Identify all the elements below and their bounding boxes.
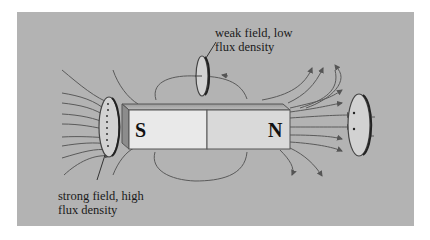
weak-field-annotation: weak field, low flux density <box>215 26 292 54</box>
right-field-ellipse <box>348 94 371 156</box>
south-pole-label: S <box>135 119 146 142</box>
strong-annotation-line1: strong field, high <box>58 189 144 203</box>
bar-magnet <box>122 104 290 149</box>
strong-field-annotation: strong field, high flux density <box>58 189 144 217</box>
weak-annotation-line2: flux density <box>215 40 292 54</box>
strong-leader-line <box>97 155 105 180</box>
weak-annotation-line1: weak field, low <box>215 26 292 40</box>
weak-field-ellipse <box>195 42 216 96</box>
strong-annotation-line2: flux density <box>58 203 144 217</box>
north-pole-label: N <box>268 119 282 142</box>
